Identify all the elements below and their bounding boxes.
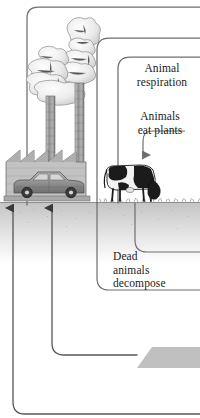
- label-animals-eat-plants: Animals eat plants: [125, 110, 195, 137]
- label-animal-respiration: Animal respiration: [128, 62, 196, 89]
- cow: [104, 165, 160, 201]
- fossil-fuel-deposit: [137, 347, 200, 368]
- smoke-plumes: [26, 18, 100, 106]
- carbon-cycle-diagram: Animal respiration Animals eat plants De…: [0, 0, 200, 418]
- label-dead-animals-decompose: Dead animals decompose: [113, 250, 199, 291]
